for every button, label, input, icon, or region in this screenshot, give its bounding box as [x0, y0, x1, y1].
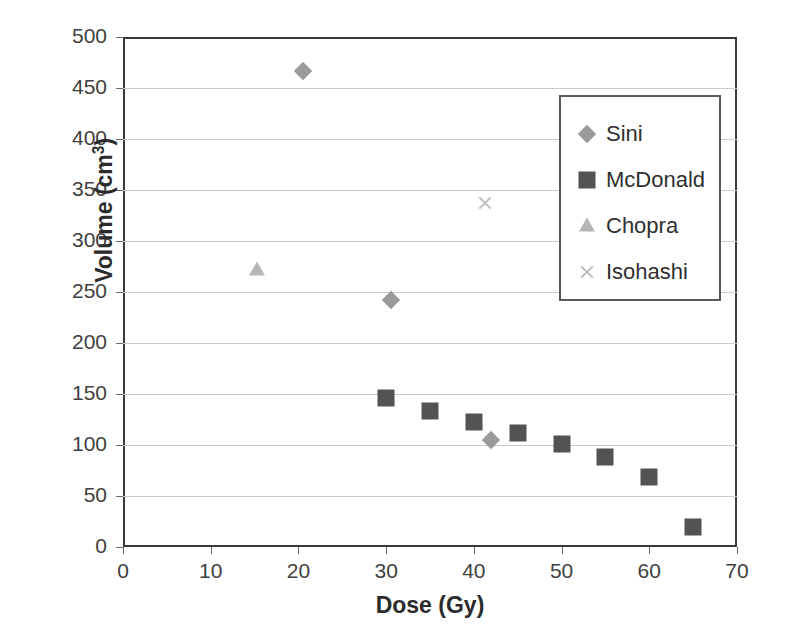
legend-item-chopra[interactable]: Chopra: [577, 203, 719, 249]
x-axis-title: Dose (Gy): [123, 592, 737, 619]
legend-label: Isohashi: [606, 259, 688, 285]
diamond-marker: [578, 125, 596, 143]
x-tick-mark: [562, 547, 563, 554]
x-tick-label: 10: [181, 559, 241, 583]
y-axis-title-base: Volume (cm: [91, 154, 117, 283]
legend-label: Chopra: [606, 213, 678, 239]
x-tick-label: 70: [707, 559, 767, 583]
data-point-mcdonald: [685, 518, 702, 535]
data-point-mcdonald: [378, 390, 395, 407]
data-point-isohashi: [477, 195, 493, 211]
data-point-chopra: [249, 261, 265, 275]
legend-swatch-square-icon: [577, 170, 597, 190]
y-tick-label: 150: [39, 381, 107, 405]
x-tick-label: 40: [444, 559, 504, 583]
y-tick-mark: [116, 343, 123, 344]
x-tick-label: 0: [93, 559, 153, 583]
legend-swatch-diamond-icon: [577, 124, 597, 144]
y-axis-title-close: ): [91, 138, 117, 146]
x-tick-mark: [737, 547, 738, 554]
legend-label: McDonald: [606, 167, 705, 193]
data-point-mcdonald: [597, 449, 614, 466]
x-tick-label: 50: [532, 559, 592, 583]
x-tick-label: 60: [619, 559, 679, 583]
cross-marker: [579, 264, 595, 280]
y-tick-mark: [116, 394, 123, 395]
y-tick-label: 450: [39, 75, 107, 99]
legend-item-sini[interactable]: Sini: [577, 111, 719, 157]
data-point-mcdonald: [641, 468, 658, 485]
y-tick-mark: [116, 547, 123, 548]
x-tick-mark: [474, 547, 475, 554]
square-marker: [579, 172, 596, 189]
y-tick-label: 500: [39, 24, 107, 48]
x-tick-mark: [298, 547, 299, 554]
data-point-mcdonald: [465, 413, 482, 430]
y-tick-mark: [116, 37, 123, 38]
x-tick-mark: [123, 547, 124, 554]
x-tick-mark: [649, 547, 650, 554]
gridline: [123, 394, 737, 395]
x-tick-label: 30: [356, 559, 416, 583]
legend-swatch-triangle-icon: [577, 216, 597, 236]
x-tick-label: 20: [268, 559, 328, 583]
x-tick-mark: [211, 547, 212, 554]
gridline: [123, 343, 737, 344]
legend: SiniMcDonaldChopraIsohashi: [559, 95, 721, 301]
y-tick-label: 0: [39, 534, 107, 558]
gridline: [123, 445, 737, 446]
gridline: [123, 88, 737, 89]
y-axis-title: Volume (cm3): [90, 100, 119, 320]
y-tick-label: 100: [39, 432, 107, 456]
legend-label: Sini: [606, 121, 643, 147]
y-tick-mark: [116, 88, 123, 89]
y-tick-label: 200: [39, 330, 107, 354]
y-tick-label: 50: [39, 483, 107, 507]
chart-page: 050100150200250300350400450500 010203040…: [0, 0, 789, 638]
legend-swatch-cross-icon: [577, 262, 597, 282]
y-tick-mark: [116, 496, 123, 497]
legend-item-mcdonald[interactable]: McDonald: [577, 157, 719, 203]
data-point-mcdonald: [553, 435, 570, 452]
data-point-mcdonald: [509, 424, 526, 441]
y-axis-title-superscript: 3: [90, 145, 107, 154]
gridline: [123, 496, 737, 497]
triangle-marker: [579, 218, 595, 232]
y-tick-mark: [116, 445, 123, 446]
legend-item-isohashi[interactable]: Isohashi: [577, 249, 719, 295]
data-point-mcdonald: [422, 403, 439, 420]
x-tick-mark: [386, 547, 387, 554]
